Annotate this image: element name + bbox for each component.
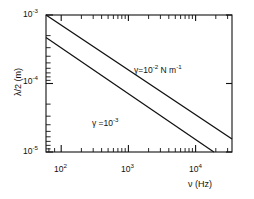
y-tick-exponent: -5: [32, 144, 38, 151]
x-tick-exponent: 4: [198, 162, 201, 169]
plot-area-background: [46, 15, 232, 152]
y-tick-label-1e-4: 10-4: [23, 77, 38, 86]
annotation-gamma: γ=10: [134, 65, 153, 75]
annotation-units-exponent: -1: [176, 63, 182, 70]
annotation-gamma: γ =10: [92, 118, 113, 128]
y-axis-label: λ/2 (m): [14, 68, 23, 96]
annotation-exponent: -3: [113, 116, 119, 123]
x-tick-label-1e4: 104: [189, 165, 202, 174]
annotation-units: N m: [158, 65, 176, 75]
x-axis-label: ν (Hz): [188, 180, 212, 189]
curve-annotation-gamma-1e-2: γ=10-2 N m-1: [134, 66, 182, 75]
y-tick-exponent: -3: [32, 7, 38, 14]
x-tick-label-1e2: 102: [54, 165, 67, 174]
figure-container: λ/2 (m) 10-3 10-4 10-5 102 103 104 ν (Hz…: [0, 0, 254, 199]
curve-annotation-gamma-1e-3: γ =10-3: [92, 119, 119, 128]
x-tick-exponent: 3: [130, 162, 133, 169]
y-tick-label-1e-5: 10-5: [23, 147, 38, 156]
y-tick-exponent: -4: [32, 74, 38, 81]
x-tick-label-1e3: 103: [121, 165, 134, 174]
x-tick-exponent: 2: [63, 162, 66, 169]
y-tick-label-1e-3: 10-3: [23, 10, 38, 19]
